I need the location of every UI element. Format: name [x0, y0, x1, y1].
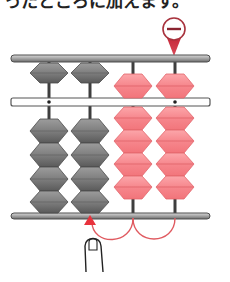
unit-dot — [47, 100, 51, 104]
minus-marker-icon — [163, 18, 185, 56]
reckoning-bar — [11, 98, 210, 106]
gray-earth-beads — [30, 119, 109, 213]
finger-pointer-icon — [85, 239, 103, 273]
carry-arrows — [92, 218, 175, 240]
unit-dot — [173, 100, 177, 104]
bottom-frame — [11, 213, 210, 219]
gray-heaven-beads — [30, 63, 109, 83]
pink-earth-beads — [114, 107, 194, 199]
pink-heaven-beads — [114, 74, 194, 98]
top-frame — [11, 55, 210, 62]
rods — [49, 60, 175, 216]
abacus-diagram — [0, 0, 230, 282]
